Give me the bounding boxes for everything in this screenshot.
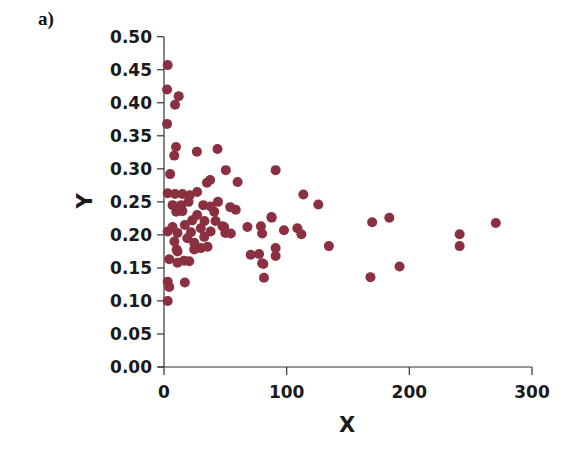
data-point — [203, 242, 213, 252]
y-tick-label: 0.45 — [110, 60, 152, 80]
data-point — [165, 169, 175, 179]
data-point — [172, 228, 182, 238]
data-point — [298, 190, 308, 200]
data-point — [271, 165, 281, 175]
x-tick-label: 200 — [392, 382, 428, 402]
data-point — [171, 142, 181, 152]
y-tick-label: 0.20 — [110, 225, 152, 245]
data-point — [192, 187, 202, 197]
data-point — [257, 258, 267, 268]
data-point — [233, 177, 243, 187]
data-point — [279, 225, 289, 235]
data-point — [202, 178, 212, 188]
data-point — [271, 243, 281, 253]
data-point — [164, 282, 174, 292]
data-point — [177, 206, 187, 216]
data-point — [206, 227, 216, 237]
data-points — [162, 60, 501, 306]
y-tick-label: 0.40 — [110, 93, 152, 113]
y-tick-label: 0.25 — [110, 192, 152, 212]
data-point — [267, 213, 277, 223]
data-point — [162, 119, 172, 129]
data-point — [180, 277, 190, 287]
x-axis-title: X — [339, 413, 355, 437]
data-point — [226, 229, 236, 239]
y-tick-label: 0.05 — [110, 324, 152, 344]
data-point — [491, 218, 501, 228]
data-point — [313, 199, 323, 209]
y-tick-label: 0.35 — [110, 126, 152, 146]
y-tick-label: 0.10 — [110, 291, 152, 311]
data-point — [221, 165, 231, 175]
data-point — [324, 241, 334, 251]
data-point — [395, 262, 405, 272]
data-point — [231, 205, 241, 215]
data-point — [367, 217, 377, 227]
data-point — [163, 296, 173, 306]
data-point — [192, 210, 202, 220]
data-point — [254, 249, 264, 259]
data-point — [209, 207, 219, 217]
y-axis-title: Y — [73, 193, 97, 210]
data-point — [172, 244, 182, 254]
data-point — [455, 241, 465, 251]
x-tick-label: 0 — [158, 382, 170, 402]
data-point — [192, 147, 202, 157]
data-point — [212, 144, 222, 154]
data-point — [257, 229, 267, 239]
y-tick-label: 0.50 — [110, 27, 152, 47]
x-tick-label: 300 — [514, 382, 550, 402]
data-point — [213, 197, 223, 207]
data-point — [169, 151, 179, 161]
data-point — [242, 222, 252, 232]
data-point — [170, 100, 180, 110]
data-point — [180, 220, 190, 230]
x-tick-label: 100 — [269, 382, 305, 402]
scatter-chart: 0.000.050.100.150.200.250.300.350.400.45… — [0, 0, 579, 449]
data-point — [184, 197, 194, 207]
y-tick-label: 0.15 — [110, 258, 152, 278]
data-point — [163, 60, 173, 70]
data-point — [365, 272, 375, 282]
data-point — [296, 229, 306, 239]
data-point — [455, 229, 465, 239]
data-point — [174, 91, 184, 101]
data-point — [162, 85, 172, 95]
data-point — [184, 256, 194, 266]
y-tick-label: 0.30 — [110, 159, 152, 179]
y-tick-label: 0.00 — [110, 357, 152, 377]
data-point — [259, 273, 269, 283]
data-point — [384, 213, 394, 223]
data-point — [196, 223, 206, 233]
